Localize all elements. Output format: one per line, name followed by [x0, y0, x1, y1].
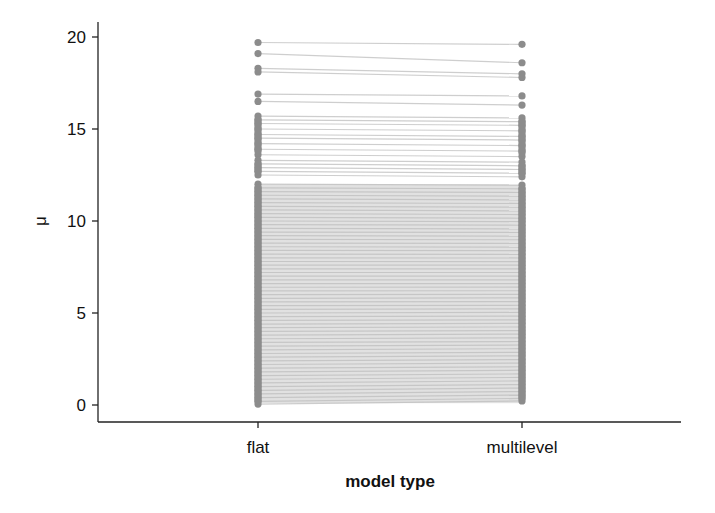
pair-line: [258, 175, 522, 177]
data-point: [254, 68, 261, 75]
pair-line: [258, 168, 522, 170]
pair-line: [258, 155, 522, 157]
pair-lines: [258, 43, 522, 405]
pair-line: [258, 120, 522, 122]
flat-point-band: [254, 184, 261, 404]
dense-line-band: [258, 184, 522, 403]
y-tick-label: 5: [77, 304, 86, 323]
multilevel-point-band: [518, 118, 525, 157]
y-tick-label: 0: [77, 396, 86, 415]
pair-line: [258, 144, 522, 146]
y-tick-label: 20: [67, 28, 86, 47]
y-axis: 05101520: [67, 22, 98, 422]
pair-line: [258, 116, 522, 118]
y-axis-title: μ: [31, 216, 50, 226]
pair-line: [258, 135, 522, 137]
pair-line: [258, 160, 522, 162]
multilevel-point-band: [518, 162, 525, 177]
data-point: [518, 59, 525, 66]
data-point: [254, 50, 261, 57]
data-point: [254, 98, 261, 105]
multilevel-point-band: [518, 185, 525, 401]
data-point: [518, 92, 525, 99]
pair-line: [258, 171, 522, 173]
pair-line: [258, 54, 522, 63]
pair-line: [258, 43, 522, 45]
data-point: [518, 41, 525, 48]
flat-point-band: [254, 160, 261, 175]
x-tick-label-multilevel: multilevel: [487, 438, 558, 457]
x-tick-label-flat: flat: [247, 438, 270, 457]
pair-line: [258, 149, 522, 151]
pair-line: [258, 94, 522, 96]
slope-chart: 05101520 flatmultilevel μ model type: [0, 0, 715, 513]
data-point: [254, 90, 261, 97]
data-point: [254, 39, 261, 46]
data-point: [518, 74, 525, 81]
x-axis: flatmultilevel: [98, 422, 681, 457]
data-point: [518, 101, 525, 108]
flat-point-band: [254, 116, 261, 155]
pair-line: [258, 129, 522, 131]
y-tick-label: 15: [67, 120, 86, 139]
pair-line: [258, 123, 522, 125]
x-axis-title: model type: [345, 472, 435, 491]
pair-line: [258, 164, 522, 166]
pair-line: [258, 138, 522, 140]
y-tick-label: 10: [67, 212, 86, 231]
pair-line: [258, 101, 522, 105]
